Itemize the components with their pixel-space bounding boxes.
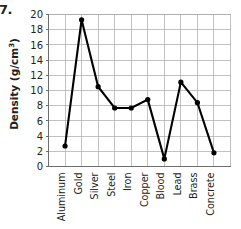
x-tick-labels: AluminumGoldSilverSteelIronCopperBloodLe… (56, 172, 216, 221)
data-point-marker (96, 84, 101, 89)
plot-area: 20181614121086420 AluminumGoldSilverStee… (0, 0, 241, 229)
y-tick-label: 14 (30, 55, 43, 66)
y-tick-label: 16 (30, 40, 43, 51)
series-polyline (65, 20, 214, 159)
data-point-marker (162, 156, 167, 161)
y-tick-label: 6 (37, 116, 43, 127)
data-point-marker (62, 143, 67, 148)
x-tick-label-blood: Blood (155, 173, 166, 200)
x-tick-label-gold: Gold (73, 173, 84, 195)
y-tick-label: 20 (30, 9, 43, 20)
x-tick-label-iron: Iron (122, 173, 133, 192)
x-tick-label-concrete: Concrete (205, 172, 216, 215)
x-tick-label-aluminum: Aluminum (56, 173, 67, 222)
density-series (62, 17, 216, 161)
data-point-marker (211, 150, 216, 155)
y-tick-label: 10 (30, 85, 43, 96)
horizontal-gridlines (49, 15, 231, 152)
y-tick-label: 0 (37, 161, 43, 172)
x-tick-label-steel: Steel (106, 173, 117, 197)
x-tick-label-brass: Brass (188, 173, 199, 199)
x-tick-label-lead: Lead (172, 173, 183, 196)
y-tick-label: 8 (37, 100, 43, 111)
data-point-marker (129, 105, 134, 110)
x-tick-label-silver: Silver (89, 172, 100, 199)
data-point-marker (112, 105, 117, 110)
data-point-marker (145, 97, 150, 102)
x-tick-label-copper: Copper (139, 172, 150, 207)
data-point-marker (178, 80, 183, 85)
density-chart-figure: 7. Density (g/cm3) 20181614121086420 Alu… (0, 0, 241, 229)
data-point-marker (79, 17, 84, 22)
y-tick-label: 12 (30, 70, 43, 81)
y-tick-label: 2 (37, 146, 43, 157)
y-tick-label: 4 (37, 131, 43, 142)
y-tick-label: 18 (30, 24, 43, 35)
data-point-marker (195, 100, 200, 105)
y-tick-labels: 20181614121086420 (30, 9, 43, 172)
